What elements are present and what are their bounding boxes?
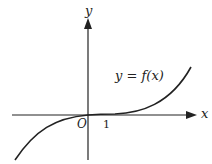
tick-label-1: 1 <box>103 119 110 130</box>
curve-label: y = f(x) <box>115 69 164 82</box>
y-axis-arrow-icon <box>84 18 92 29</box>
function-graph-figure: y x O 1 y = f(x) <box>0 0 212 164</box>
x-axis-label: x <box>201 107 208 120</box>
x-axis-arrow-icon <box>186 111 197 119</box>
origin-label: O <box>77 118 87 130</box>
function-curve <box>15 67 191 160</box>
graph-canvas <box>0 0 212 164</box>
y-axis-label: y <box>85 4 92 17</box>
